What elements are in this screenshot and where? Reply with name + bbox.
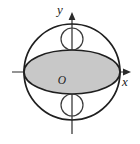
shaded-ellipse	[24, 50, 120, 94]
geometry-figure-container: y x O	[0, 0, 140, 144]
y-axis-label: y	[55, 2, 63, 17]
y-axis-arrowhead	[69, 12, 76, 20]
x-axis-label: x	[121, 74, 128, 89]
geometry-figure-svg: y x O	[0, 0, 140, 144]
origin-label: O	[58, 74, 67, 86]
